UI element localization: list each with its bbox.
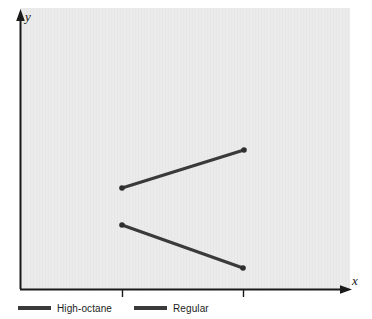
legend-swatch-icon-regular — [134, 306, 167, 310]
legend-label-high-octane: High-octane — [57, 303, 112, 314]
y-axis-label: y — [25, 10, 31, 23]
data-point-high-octane-1 — [119, 185, 125, 191]
legend-label-regular: Regular — [173, 303, 209, 314]
chart-legend: High-octane Regular — [18, 299, 209, 317]
legend-item-high-octane: High-octane — [18, 303, 112, 314]
data-point-regular-2 — [240, 265, 246, 271]
data-point-high-octane-2 — [241, 147, 247, 153]
chart-figure: y x High-octane Regular — [0, 0, 372, 319]
x-axis-label: x — [352, 274, 358, 287]
chart-canvas — [0, 0, 372, 319]
legend-swatch-icon-high-octane — [18, 306, 51, 310]
data-point-regular-1 — [119, 222, 125, 228]
legend-item-regular: Regular — [134, 303, 209, 314]
